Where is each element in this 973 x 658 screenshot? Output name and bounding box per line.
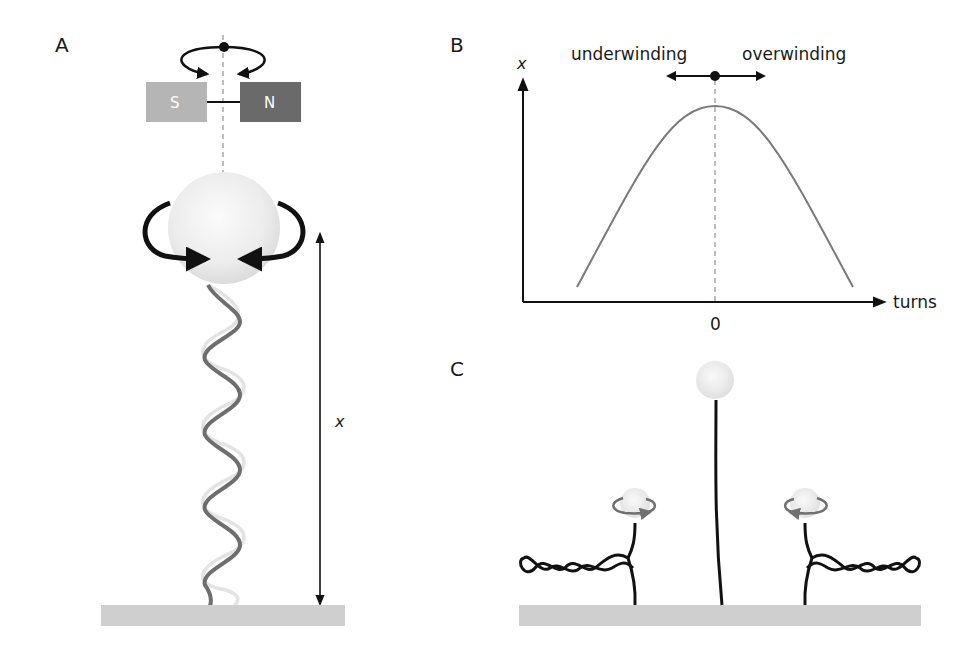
dna-double-helix bbox=[203, 285, 244, 606]
panel-b-label: B bbox=[450, 33, 464, 57]
extension-x-label: x bbox=[334, 412, 345, 431]
center-dna-strand bbox=[716, 400, 722, 605]
panel-a: A S N x bbox=[55, 33, 345, 626]
origin-dot bbox=[710, 71, 720, 81]
left-plectoneme bbox=[520, 488, 654, 605]
extension-curve bbox=[577, 106, 853, 287]
x-tick-zero: 0 bbox=[710, 314, 721, 334]
center-bead bbox=[696, 361, 734, 399]
panel-c: C bbox=[450, 357, 921, 626]
underwinding-label: underwinding bbox=[571, 44, 687, 64]
panel-a-label: A bbox=[55, 33, 69, 57]
figure-canvas: A S N x bbox=[0, 0, 973, 658]
panel-c-label: C bbox=[450, 357, 464, 381]
surface-c bbox=[519, 605, 921, 626]
magnetic-bead bbox=[168, 172, 280, 284]
x-axis-label: turns bbox=[893, 292, 937, 312]
magnet-north-label: N bbox=[264, 94, 275, 112]
surface-a bbox=[101, 605, 345, 626]
right-plectoneme bbox=[785, 488, 919, 605]
overwinding-label: overwinding bbox=[742, 44, 846, 64]
magnet-south-label: S bbox=[170, 94, 180, 112]
panel-b-chart: B x turns 0 underwinding overwinding bbox=[450, 33, 937, 334]
y-axis-label: x bbox=[516, 54, 527, 73]
